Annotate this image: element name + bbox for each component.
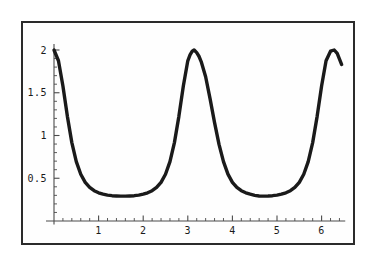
x-axis-tick-label: 5 — [274, 225, 281, 236]
plot-frame: 1234560.511.52 — [21, 21, 355, 245]
data-series-line — [54, 50, 342, 196]
x-axis-tick-label: 3 — [185, 225, 192, 236]
x-axis-tick-label: 4 — [229, 225, 236, 236]
y-axis-tick-label: 1.5 — [27, 87, 47, 98]
y-axis-tick-label: 2 — [40, 45, 47, 56]
figure-container: 1234560.511.52 — [0, 0, 371, 261]
x-axis-tick-label: 6 — [318, 225, 325, 236]
x-axis-tick-label: 2 — [140, 225, 147, 236]
y-axis-tick-label: 0.5 — [27, 173, 47, 184]
x-axis-tick-label: 1 — [95, 225, 102, 236]
plot-canvas: 1234560.511.52 — [23, 23, 353, 243]
y-axis-tick-label: 1 — [40, 130, 47, 141]
